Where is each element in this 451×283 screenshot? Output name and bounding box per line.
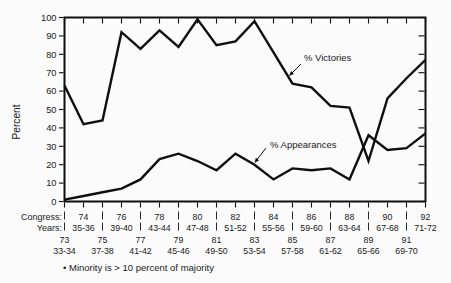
congress-even-label: 80 [193,212,203,222]
appearances-arrow [257,148,266,160]
year-even-label: 59-60 [300,223,323,233]
year-even-label: 39-40 [110,223,133,233]
congress-even-label: 76 [117,212,127,222]
congress-odd-label: 83 [250,235,260,245]
year-odd-label: 37-38 [91,246,114,256]
congress-odd-label: 87 [326,235,336,245]
year-odd-label: 49-50 [205,246,228,256]
year-odd-label: 33-34 [53,246,76,256]
year-even-label: 63-64 [338,223,361,233]
line-chart: 01020304050607080901007435-367639-407843… [0,0,451,283]
y-tick-label: 20 [46,160,56,170]
year-odd-label: 57-58 [281,246,304,256]
year-odd-label: 41-42 [129,246,152,256]
appearances-series-label: % Appearances [270,139,337,150]
y-tick-label: 50 [46,105,56,115]
y-tick-label: 70 [46,68,56,78]
year-even-label: 47-48 [186,223,209,233]
y-tick-label: 40 [46,123,56,133]
victories-line [65,19,426,161]
chart-canvas: 01020304050607080901007435-367639-407843… [0,0,451,283]
year-even-label: 43-44 [148,223,171,233]
congress-odd-label: 77 [136,235,146,245]
y-tick-label: 100 [41,13,57,23]
victories-arrow [292,64,302,74]
congress-odd-label: 75 [98,235,108,245]
year-even-label: 67-68 [376,223,399,233]
congress-odd-label: 73 [60,235,70,245]
congress-odd-label: 89 [364,235,374,245]
year-even-label: 51-52 [224,223,247,233]
congress-even-label: 82 [231,212,241,222]
congress-odd-label: 79 [174,235,184,245]
year-even-label: 35-36 [72,223,95,233]
congress-even-label: 78 [155,212,165,222]
footnote: • Minority is > 10 percent of majority [63,262,214,273]
y-tick-label: 80 [46,50,56,60]
year-even-label: 55-56 [262,223,285,233]
congress-odd-label: 81 [212,235,222,245]
y-tick-label: 90 [46,31,56,41]
year-odd-label: 45-46 [167,246,190,256]
congress-even-label: 92 [421,212,431,222]
appearances-arrowhead [255,158,260,163]
year-odd-label: 61-62 [319,246,342,256]
congress-even-label: 88 [345,212,355,222]
years-row-header: Years: [37,223,62,233]
appearances-line [65,133,426,199]
y-axis-title: Percent [11,104,22,139]
congress-row-header: Congress: [21,212,62,222]
chart-plot-area: 01020304050607080901007435-367639-407843… [41,13,437,256]
congress-odd-label: 91 [402,235,412,245]
year-odd-label: 53-54 [243,246,266,256]
victories-series-label: % Victories [304,52,352,63]
y-tick-label: 0 [51,197,56,207]
y-tick-label: 60 [46,86,56,96]
y-tick-label: 10 [46,178,56,188]
year-odd-label: 69-70 [395,246,418,256]
congress-odd-label: 85 [288,235,298,245]
y-tick-label: 30 [46,142,56,152]
congress-even-label: 84 [269,212,279,222]
congress-even-label: 90 [383,212,393,222]
congress-even-label: 74 [79,212,89,222]
year-odd-label: 65-66 [357,246,380,256]
congress-even-label: 86 [307,212,317,222]
year-even-label: 71-72 [414,223,437,233]
